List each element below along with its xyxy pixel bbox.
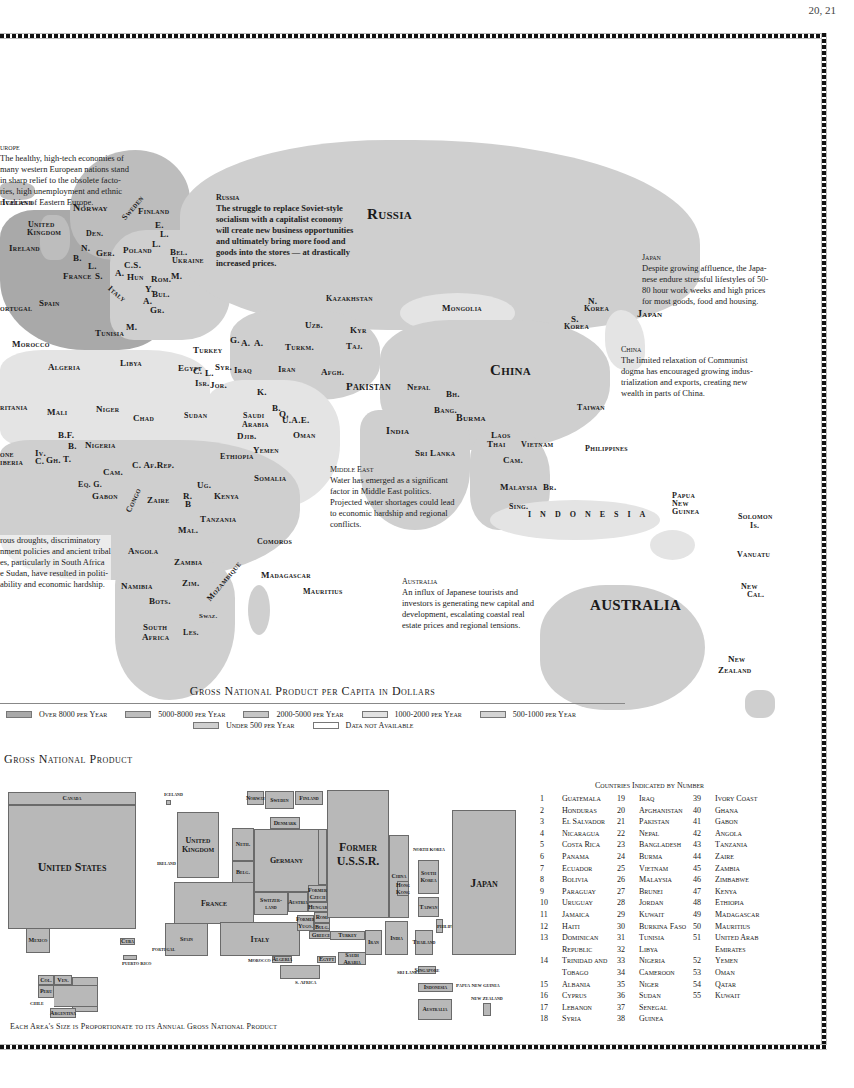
country-index-row: 34Cameroon [617, 967, 686, 979]
label-solomon-islands: Solomon [738, 512, 773, 521]
country-index-name: Albania [562, 979, 590, 991]
legend-item-500-1000: 500-1000 per Year [480, 710, 576, 719]
box-sweden: Sweden [265, 791, 294, 809]
legend-row-1: Over 8000 per Year 5000-8000 per Year 20… [6, 710, 576, 719]
label-equatorial-guinea: Eq. G. [78, 480, 102, 489]
label-singapore: Sing. [509, 502, 528, 511]
country-index-number: 26 [617, 874, 639, 886]
label-angola: Angola [128, 546, 158, 556]
label-madagascar: Madagascar [261, 570, 311, 580]
label-mongolia: Mongolia [442, 303, 482, 313]
country-index-number: 7 [540, 863, 562, 875]
country-index-column-2: 19Iraq20Afghanistan21Pakistan22Nepal23Ba… [617, 793, 686, 1025]
country-index-number: 1 [540, 793, 562, 805]
box-belgium: Belg. [232, 861, 254, 883]
label-puerto-rico: Puerto Rico [122, 961, 151, 966]
label-new-zealand: New [728, 654, 745, 664]
label-denmark: Den. [86, 229, 103, 238]
legend-row-2: Under 500 per Year Data not Available [193, 721, 413, 730]
label-indonesia: Indonesia [528, 510, 654, 519]
label-djibouti: Djib. [237, 431, 257, 441]
decorative-border-right [821, 33, 827, 1050]
country-index-row: 2Honduras [540, 805, 607, 817]
country-index-name: Jamaica [562, 909, 589, 921]
country-index-name: Uruguay [562, 897, 593, 909]
label-australia: Australia [590, 597, 681, 614]
label-israel: Isr. [195, 378, 210, 388]
country-index-name: Qatar [715, 979, 736, 991]
country-index-number: 23 [617, 839, 639, 851]
legend-item-5000-8000: 5000-8000 per Year [125, 710, 225, 719]
country-index-row: 6Panama [540, 851, 607, 863]
label-egypt: Egypt [178, 363, 202, 373]
label-brunei: Br. [543, 482, 557, 492]
box-iceland [166, 800, 171, 805]
box-iran: Iran [365, 930, 382, 955]
country-index-row: 1Guatemala [540, 793, 607, 805]
country-index-number: 22 [617, 828, 639, 840]
country-index-row: 4Nicaragua [540, 828, 607, 840]
label-ireland: Ireland [9, 243, 40, 253]
label-uzbekistan: Uzb. [305, 320, 323, 330]
country-index-row: 25Vietnam [617, 863, 686, 875]
box-puerto-rico [123, 955, 137, 960]
cartogram-title: Gross National Product [4, 752, 133, 767]
country-index-name: Brunei [639, 886, 663, 898]
country-index-name: Burma [639, 851, 662, 863]
label-turkmenistan: Turkm. [285, 342, 314, 352]
label-oman: Oman [293, 430, 316, 440]
country-index-number: 27 [617, 886, 639, 898]
country-index-name: Zambia [715, 863, 740, 875]
country-index-name: Ethiopia [715, 897, 744, 909]
country-index-name: Iraq [639, 793, 654, 805]
country-index-name: Pakistan [639, 816, 669, 828]
country-index-number: 46 [693, 874, 715, 886]
box-austria: Austria [288, 892, 308, 912]
box-brazil-main [54, 985, 98, 1007]
landmass-png [650, 530, 695, 560]
gnp-cartogram: Canada United States Mexico Cuba Puerto … [0, 780, 530, 1040]
country-index-number: 13 [540, 932, 562, 944]
country-index-row: 15Albania [540, 979, 607, 991]
country-index-row: 12Haiti [540, 921, 607, 933]
label-georgia: G. [230, 335, 240, 345]
country-index-name: Yemen [715, 955, 738, 967]
country-index-name: Ecuador [562, 863, 592, 875]
country-index-name: Jordan [639, 897, 663, 909]
country-index-row: 42Angola [693, 828, 759, 840]
country-index-row: 16Cyprus [540, 990, 607, 1002]
country-index-number: 2 [540, 805, 562, 817]
country-index-name: Kuwait [715, 990, 740, 1002]
country-index-number: 25 [617, 863, 639, 875]
label-greece: Gr. [150, 305, 164, 315]
label-saudi-arabia: Saudi [243, 411, 264, 420]
box-canada: Canada [8, 792, 136, 805]
legend-item-not-available: Data not Available [313, 721, 414, 730]
country-index-row: 33Nigeria [617, 955, 686, 967]
box-peru: Peru [38, 985, 54, 998]
country-index-row: Republic [540, 944, 607, 956]
country-index-row: 44Zaire [693, 851, 759, 863]
label-latvia: L. [160, 229, 169, 239]
label-yemen: Yemen [253, 445, 279, 455]
box-taiwan: Taiwan [418, 897, 439, 917]
label-iran: Iran [278, 364, 296, 374]
label-liberia: iberia [0, 458, 23, 467]
country-index-name: Lebanon [562, 1002, 592, 1014]
landmass-madagascar [248, 585, 270, 635]
label-tajikistan: Taj. [346, 341, 363, 351]
country-index-row: 26Malaysia [617, 874, 686, 886]
legend-item-under-500: Under 500 per Year [193, 721, 295, 730]
country-index-number: 54 [693, 979, 715, 991]
legend-swatch [6, 711, 32, 718]
label-tanzania: Tanzania [200, 514, 236, 524]
label-thailand: Thai [487, 439, 506, 449]
label-czechoslovakia: C.S. [124, 260, 141, 270]
label-spain: Spain [39, 298, 60, 308]
label-morocco: Morocco [12, 339, 50, 349]
country-index-number [693, 944, 715, 956]
label-ireland: Ireland [157, 861, 176, 866]
label-portugal: Portugal [152, 947, 175, 952]
label-sudan: Sudan [184, 411, 207, 420]
box-netherlands: Neth. [232, 828, 254, 861]
